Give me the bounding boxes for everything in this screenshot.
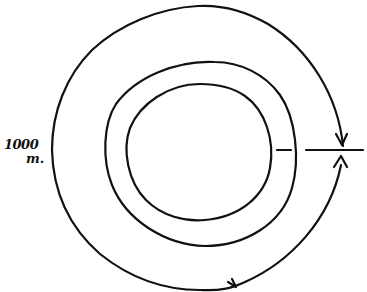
middle-contour <box>105 62 296 246</box>
contour-elevation-label: 1000 <box>4 138 38 151</box>
outer-contour <box>52 6 343 290</box>
arrow-mark-icon <box>228 279 236 287</box>
contour-unit-label: m. <box>26 152 44 165</box>
inner-contour <box>127 84 272 220</box>
contour-diagram <box>0 0 367 292</box>
